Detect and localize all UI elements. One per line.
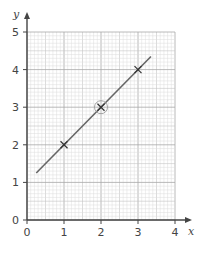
axes [23,12,192,224]
x-tick-label: 2 [98,226,105,239]
line-graph: 01234012345 x y [0,0,203,255]
x-tick-label: 1 [61,226,68,239]
grid [27,32,175,220]
x-tick-label: 0 [24,226,31,239]
y-tick-label: 5 [12,26,19,39]
y-tick-label: 3 [12,101,19,114]
y-axis-label: y [12,8,20,21]
y-tick-label: 2 [12,139,19,152]
tick-labels: 01234012345 [12,26,179,239]
x-tick-label: 3 [135,226,142,239]
x-tick-label: 4 [172,226,179,239]
y-tick-label: 1 [12,176,19,189]
x-axis-label: x [188,225,195,238]
y-tick-label: 0 [12,214,19,227]
y-tick-label: 4 [12,64,19,77]
